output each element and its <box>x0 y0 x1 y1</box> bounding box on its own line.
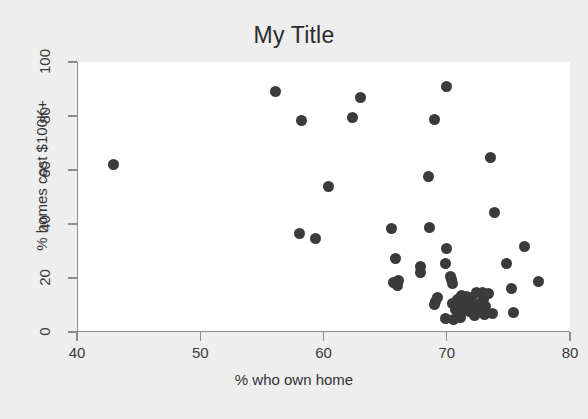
data-point <box>386 223 397 234</box>
data-point <box>479 309 490 320</box>
y-tick-label: 100 <box>36 42 53 82</box>
y-tick-label: 60 <box>36 150 53 190</box>
x-tick-label: 50 <box>178 344 222 361</box>
data-point <box>296 115 307 126</box>
data-point <box>519 241 530 252</box>
x-tick-label: 80 <box>548 344 588 361</box>
data-point <box>440 258 451 269</box>
data-point <box>441 243 452 254</box>
y-tick-mark <box>68 115 77 116</box>
data-point <box>415 267 426 278</box>
data-points-layer <box>78 62 570 331</box>
data-point <box>323 181 334 192</box>
x-tick-mark <box>200 332 201 341</box>
data-point <box>108 159 119 170</box>
data-point <box>429 114 440 125</box>
data-point <box>478 294 489 305</box>
y-tick-mark <box>68 277 77 278</box>
y-tick-label: 0 <box>36 312 53 352</box>
x-tick-mark <box>323 332 324 341</box>
data-point <box>447 278 458 289</box>
data-point <box>423 171 434 182</box>
data-point <box>390 253 401 264</box>
x-tick-mark <box>76 332 77 341</box>
y-tick-label: 40 <box>36 204 53 244</box>
x-tick-label: 60 <box>302 344 346 361</box>
data-point <box>310 233 321 244</box>
data-point <box>347 112 358 123</box>
x-tick-label: 70 <box>425 344 469 361</box>
data-point <box>508 307 519 318</box>
chart-title: My Title <box>0 22 588 49</box>
data-point <box>506 283 517 294</box>
data-point <box>355 92 366 103</box>
y-tick-label: 20 <box>36 258 53 298</box>
data-point <box>432 292 443 303</box>
x-tick-mark <box>569 332 570 341</box>
data-point <box>489 207 500 218</box>
data-point <box>270 86 281 97</box>
data-point <box>501 258 512 269</box>
data-point <box>485 152 496 163</box>
data-point <box>455 312 466 323</box>
x-axis-title: % who own home <box>0 371 588 388</box>
y-tick-mark <box>68 223 77 224</box>
plot-area <box>77 62 570 332</box>
y-tick-mark <box>68 61 77 62</box>
data-point <box>424 222 435 233</box>
x-tick-label: 40 <box>55 344 99 361</box>
data-point <box>533 276 544 287</box>
scatter-plot-figure: My Title % homes cost $100K+ % who own h… <box>0 0 588 419</box>
data-point <box>294 228 305 239</box>
data-point <box>441 81 452 92</box>
y-tick-mark <box>68 169 77 170</box>
y-tick-label: 80 <box>36 96 53 136</box>
x-tick-mark <box>446 332 447 341</box>
